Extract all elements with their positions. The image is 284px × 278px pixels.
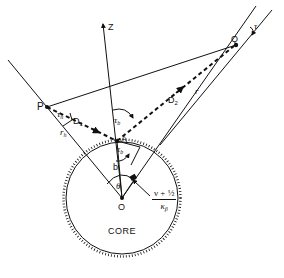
label-tau-b-upper: τb — [114, 116, 120, 126]
arrow-nu — [133, 180, 150, 196]
fraction-numerator: ν + ½ — [152, 188, 176, 200]
label-tau: τ — [254, 22, 257, 31]
label-theta: θ — [116, 182, 120, 191]
label-d2: D2 — [168, 96, 178, 106]
tau-arc — [250, 27, 253, 35]
label-d1: D1 — [73, 117, 83, 127]
label-z-axis: Z — [108, 23, 114, 32]
label-a: A — [121, 135, 127, 144]
label-core: CORE — [108, 227, 136, 236]
label-b: b — [113, 163, 118, 172]
fraction-nu-over-kappa: ν + ½ κβ — [152, 188, 176, 212]
point-o — [120, 196, 124, 200]
core-geometry-diagram — [0, 0, 284, 278]
tau-h-bracket — [63, 113, 72, 126]
label-r: r — [195, 87, 199, 96]
fraction-denominator: κβ — [152, 200, 176, 212]
label-p: P — [37, 102, 44, 112]
label-q: Q — [231, 35, 238, 44]
point-p — [45, 105, 49, 109]
label-tau-b-lower: τb — [117, 145, 123, 155]
d2-arrowhead — [176, 87, 183, 93]
label-o: O — [118, 203, 125, 212]
label-tau-h: τh — [57, 110, 63, 120]
label-rh: rh — [60, 128, 67, 138]
point-a — [115, 139, 119, 143]
line-o-nu — [122, 180, 134, 198]
